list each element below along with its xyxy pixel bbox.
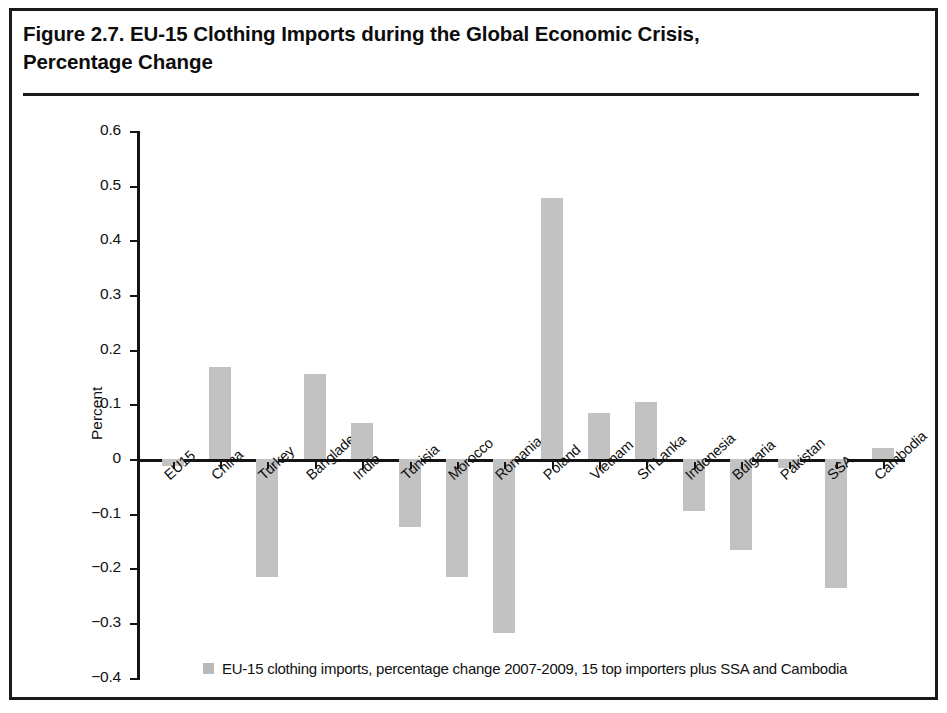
bar-bangladesh[interactable] — [304, 374, 326, 459]
y-axis-tick — [130, 131, 137, 133]
y-axis-tick — [130, 459, 137, 461]
y-axis-title: Percent — [88, 387, 106, 440]
bar-chart: 0.60.50.40.30.20.10−0.1−0.2−0.3−0.4Perce… — [0, 0, 947, 713]
y-axis-tick — [130, 678, 137, 680]
y-axis-tick-label: −0.1 — [59, 504, 121, 522]
y-axis-tick — [130, 514, 137, 516]
y-axis-line — [137, 131, 140, 680]
y-axis-tick-label: −0.3 — [59, 613, 121, 631]
y-axis-tick — [130, 240, 137, 242]
y-axis-tick-label: 0.2 — [59, 340, 121, 358]
y-axis-tick — [130, 186, 137, 188]
bar-china[interactable] — [209, 367, 231, 459]
y-axis-tick-label: 0 — [59, 449, 121, 467]
x-axis-tick-label: EU15 — [161, 447, 198, 483]
figure-container: Figure 2.7. EU-15 Clothing Imports durin… — [0, 0, 947, 713]
x-axis-tick-label: Romania — [492, 433, 545, 483]
y-axis-tick-label: −0.2 — [59, 558, 121, 576]
y-axis-tick-label: 0.3 — [59, 285, 121, 303]
bar-sri-lanka[interactable] — [635, 402, 657, 459]
legend-swatch-icon — [203, 663, 214, 674]
y-axis-tick-label: −0.4 — [59, 668, 121, 686]
chart-legend: EU-15 clothing imports, percentage chang… — [203, 660, 847, 677]
y-axis-tick — [130, 295, 137, 297]
y-axis-tick — [130, 350, 137, 352]
bar-romania[interactable] — [493, 459, 515, 633]
bar-poland[interactable] — [541, 198, 563, 459]
y-axis-tick — [130, 568, 137, 570]
y-axis-tick — [130, 404, 137, 406]
legend-label: EU-15 clothing imports, percentage chang… — [222, 660, 847, 677]
y-axis-tick-label: 0.4 — [59, 230, 121, 248]
y-axis-tick-label: 0.6 — [59, 121, 121, 139]
y-axis-tick — [130, 623, 137, 625]
y-axis-tick-label: 0.5 — [59, 176, 121, 194]
